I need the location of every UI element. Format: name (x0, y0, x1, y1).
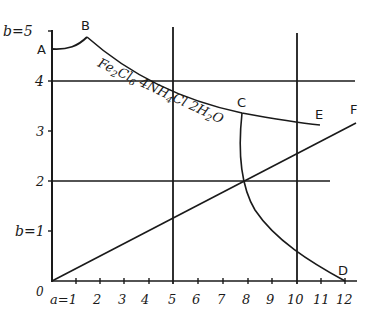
svg-text:11: 11 (313, 292, 330, 307)
x-labels: a=1 2 3 4 5 6 7 8 9 10 11 12 (50, 292, 353, 307)
svg-text:3: 3 (118, 292, 126, 307)
curve-a-b (52, 37, 87, 49)
point-label-d: D (338, 263, 348, 278)
point-label-a: A (37, 42, 46, 57)
phase-diagram: b=5 4 3 2 b=1 0 a=1 2 3 4 5 6 7 8 9 10 1… (0, 0, 375, 319)
svg-text:8: 8 (242, 292, 250, 307)
svg-text:4: 4 (140, 292, 149, 307)
svg-text:12: 12 (336, 292, 353, 307)
svg-text:5: 5 (168, 292, 176, 307)
svg-text:6: 6 (192, 292, 200, 307)
y-label-3: 3 (36, 124, 44, 139)
point-label-f: F (350, 102, 357, 117)
svg-text:9: 9 (266, 292, 274, 307)
y-label-4: 4 (34, 73, 44, 89)
y-label-2: 2 (35, 174, 44, 189)
y-label-1: b=1 (15, 223, 45, 239)
svg-text:a=1: a=1 (50, 292, 77, 307)
line-o-f (52, 123, 356, 281)
point-label-b: B (81, 18, 90, 33)
point-label-e: E (315, 107, 323, 122)
curve-c-d (240, 113, 345, 281)
svg-text:7: 7 (217, 292, 226, 307)
svg-text:2: 2 (92, 292, 101, 307)
svg-text:10: 10 (287, 292, 304, 307)
origin-label: 0 (36, 285, 44, 299)
point-label-c: C (237, 95, 246, 110)
y-label-5: b=5 (3, 23, 33, 39)
compound-label: Fe2Cl6 4NH4Cl 2H2O (94, 55, 226, 129)
